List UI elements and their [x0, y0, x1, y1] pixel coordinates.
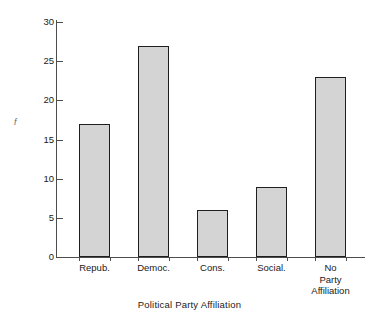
x-axis-tick [346, 257, 347, 261]
x-axis-tick [138, 257, 139, 261]
x-axis-tick [79, 257, 80, 261]
x-axis-tick [287, 257, 288, 261]
x-axis-label: Political Party Affiliation [0, 299, 379, 310]
y-axis-tick-label: 15 [43, 135, 54, 145]
bar [197, 210, 228, 257]
y-axis-tick [56, 100, 63, 101]
x-axis-tick [315, 257, 316, 261]
y-axis-tick-label: 0 [49, 252, 54, 262]
x-axis-tick [197, 257, 198, 261]
y-axis-tick [56, 22, 63, 23]
y-axis-tick [56, 257, 63, 258]
y-axis-tick [56, 179, 63, 180]
bar [256, 187, 287, 258]
y-axis-tick-label: 30 [43, 17, 54, 27]
x-axis-tick [256, 257, 257, 261]
x-axis-tick [169, 257, 170, 261]
bar [138, 46, 169, 258]
bar [315, 77, 346, 257]
y-axis-tick [56, 140, 63, 141]
x-axis-tick [110, 257, 111, 261]
y-axis-label: f [14, 118, 17, 127]
bar [79, 124, 110, 257]
y-axis-tick-label: 5 [49, 213, 54, 223]
y-axis-tick [56, 218, 63, 219]
x-axis-tick [228, 257, 229, 261]
y-axis-tick-label: 10 [43, 174, 54, 184]
x-axis-line [56, 257, 365, 258]
y-axis-tick-label: 20 [43, 95, 54, 105]
bar-chart-figure: f 051015202530 Repub.Democ.Cons.Social.N… [0, 0, 379, 320]
y-axis-tick [56, 61, 63, 62]
y-axis-tick-label: 25 [43, 56, 54, 66]
x-axis-category-label: No Party Affiliation [291, 262, 371, 297]
